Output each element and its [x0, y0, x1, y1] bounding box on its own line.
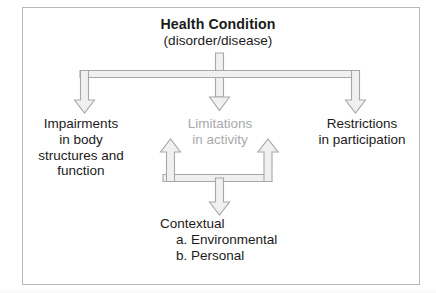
icf-diagram: Health Condition (disorder/disease) Impa…	[0, 0, 436, 293]
node-restrictions: Restrictions in participation	[296, 116, 428, 148]
node-contextual: Contextual a. Environmental b. Personal	[146, 216, 306, 263]
limitations-line-1: Limitations	[168, 116, 272, 132]
restrictions-line-1: Restrictions	[296, 116, 428, 132]
impairments-line-2: in body	[18, 132, 144, 148]
contextual-item-environmental: a. Environmental	[146, 232, 306, 248]
health-condition-title: Health Condition	[118, 16, 318, 33]
impairments-line-1: Impairments	[18, 116, 144, 132]
impairments-line-3: structures and	[18, 148, 144, 164]
contextual-item-personal: b. Personal	[146, 248, 306, 264]
node-impairments: Impairments in body structures and funct…	[18, 116, 144, 179]
contextual-heading: Contextual	[146, 216, 306, 232]
restrictions-line-2: in participation	[296, 132, 428, 148]
health-condition-subtitle: (disorder/disease)	[118, 33, 318, 49]
limitations-line-2: in activity	[168, 132, 272, 148]
scan-edge-artifact	[0, 289, 436, 293]
node-limitations: Limitations in activity	[168, 116, 272, 148]
node-health-condition: Health Condition (disorder/disease)	[118, 16, 318, 49]
impairments-line-4: function	[18, 163, 144, 179]
